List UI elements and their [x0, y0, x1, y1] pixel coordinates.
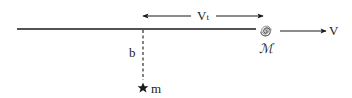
vt-label-main: V — [197, 8, 206, 23]
galaxy-velocity-label: V — [329, 24, 338, 37]
vt-label: Vt — [197, 9, 209, 22]
galaxy-mass-label: ℳ — [259, 42, 273, 55]
diagram-canvas — [0, 0, 352, 98]
galaxy-spiral-icon — [261, 26, 271, 36]
star-icon — [138, 83, 149, 93]
mass-label: m — [151, 82, 161, 95]
impact-parameter-label: b — [129, 46, 136, 59]
vt-label-subscript: t — [206, 12, 209, 22]
